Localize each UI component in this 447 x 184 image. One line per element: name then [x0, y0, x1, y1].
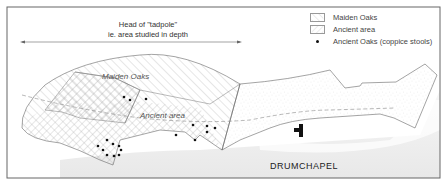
building-icon: [294, 124, 303, 137]
hatch-forward-icon: [310, 13, 325, 22]
maiden-oaks-label: Maiden Oaks: [102, 72, 149, 81]
legend-item-ancient: Ancient area: [310, 24, 432, 35]
legend-label: Maiden Oaks: [333, 13, 377, 22]
dot-icon: [310, 40, 325, 43]
study-area-label-line2: ie. area studied in depth: [88, 30, 208, 40]
legend-label: Ancient Oaks (coppice stools): [333, 37, 432, 46]
hatch-backward-icon: [310, 25, 325, 34]
study-area-label-line1: Head of "tadpole": [88, 20, 208, 30]
legend-label: Ancient area: [333, 25, 375, 34]
legend-item-maiden: Maiden Oaks: [310, 12, 432, 23]
study-area-label: Head of "tadpole" ie. area studied in de…: [88, 20, 208, 40]
ancient-area-label: Ancient area: [140, 111, 185, 120]
legend-item-oaks: Ancient Oaks (coppice stools): [310, 36, 432, 47]
legend: Maiden Oaks Ancient area Ancient Oaks (c…: [310, 12, 432, 48]
drumchapel-label: DRUMCHAPEL: [270, 161, 338, 171]
